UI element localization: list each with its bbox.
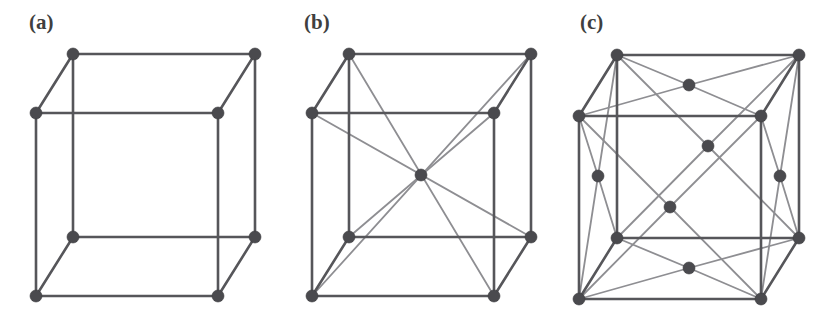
- cube-edge: [36, 54, 73, 113]
- lattice-diagonal: [708, 55, 799, 146]
- atom-front-bottom-right: [755, 293, 767, 305]
- unit-cell-diagram-b: [276, 0, 552, 318]
- atom-back-bottom-left: [611, 232, 623, 244]
- atom-face-center-left: [592, 170, 604, 182]
- lattice-diagonal: [617, 238, 689, 268]
- atom-face-center-top: [683, 79, 695, 91]
- atom-back-bottom-right: [249, 231, 261, 243]
- atom-back-top-right: [249, 48, 261, 60]
- atom-back-top-left: [343, 48, 355, 60]
- atom-front-bottom-right: [488, 290, 500, 302]
- atom-front-bottom-left: [30, 290, 42, 302]
- crystal-lattice-figure: (a) (b) (c): [0, 0, 829, 318]
- atom-face-center-bottom: [683, 262, 695, 274]
- atom-back-top-right: [793, 49, 805, 61]
- atom-back-top-left: [67, 48, 79, 60]
- atom-back-top-left: [611, 49, 623, 61]
- atom-front-top-right: [212, 107, 224, 119]
- atom-back-bottom-left: [67, 231, 79, 243]
- atom-front-top-right: [488, 107, 500, 119]
- lattice-diagonal: [617, 55, 708, 146]
- atom-front-bottom-left: [573, 293, 585, 305]
- lattice-diagonal: [670, 116, 761, 207]
- lattice-diagonal: [579, 207, 670, 299]
- cube-edge: [494, 54, 531, 113]
- lattice-diagonal: [617, 55, 689, 85]
- lattice-diagonal: [780, 55, 799, 176]
- atom-face-center-back: [702, 140, 714, 152]
- cube-edge: [218, 237, 255, 296]
- panel-simple-cubic: (a): [0, 0, 276, 318]
- atom-back-top-right: [525, 48, 537, 60]
- lattice-diagonal: [689, 268, 761, 299]
- atom-face-center-front: [664, 201, 676, 213]
- atom-front-top-left: [30, 107, 42, 119]
- lattice-diagonal: [689, 85, 761, 116]
- atom-front-top-right: [755, 110, 767, 122]
- lattice-diagonal: [579, 176, 598, 299]
- cube-edge: [36, 237, 73, 296]
- unit-cell-diagram-c: [553, 0, 829, 318]
- atom-back-bottom-left: [343, 231, 355, 243]
- cube-edge: [312, 237, 349, 296]
- unit-cell-diagram-a: [0, 0, 276, 318]
- atom-face-center-right: [774, 170, 786, 182]
- atom-front-bottom-left: [306, 290, 318, 302]
- atom-back-bottom-right: [525, 231, 537, 243]
- cube-edge: [218, 54, 255, 113]
- atom-body-center: [415, 169, 427, 181]
- lattice-diagonal: [617, 146, 708, 238]
- lattice-diagonal: [761, 116, 780, 176]
- cube-edge: [494, 237, 531, 296]
- atom-front-top-left: [573, 110, 585, 122]
- cube-edge: [312, 54, 349, 113]
- panel-body-centered-cubic: (b): [276, 0, 552, 318]
- atom-back-bottom-right: [793, 232, 805, 244]
- panel-face-centered-cubic: (c): [553, 0, 829, 318]
- lattice-diagonal: [598, 176, 617, 238]
- atom-front-bottom-right: [212, 290, 224, 302]
- atom-front-top-left: [306, 107, 318, 119]
